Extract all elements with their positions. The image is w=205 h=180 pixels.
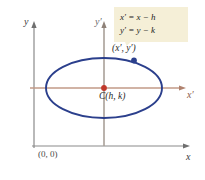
origin-label: (0, 0) (38, 150, 58, 159)
curve-point-label: (x′, y′) (112, 44, 136, 54)
y-prime-axis (101, 21, 106, 146)
translation-of-axes-diagram: x′ = x − h y′ = y − k y x y′ x′ (0, 0) C… (0, 0, 205, 180)
axis-label-x-prime: x′ (187, 90, 194, 100)
equation-y-prime: y′ = y − k (120, 24, 183, 37)
y-axis (31, 21, 36, 148)
axis-label-x: x (186, 152, 190, 162)
curve-point-dot (131, 58, 137, 64)
axis-label-y: y (24, 17, 28, 27)
formula-callout: x′ = x − h y′ = y − k (114, 7, 188, 42)
center-point-label: C(h, k) (99, 92, 125, 102)
x-axis (32, 143, 190, 148)
axis-label-y-prime: y′ (95, 17, 102, 27)
equation-x-prime: x′ = x − h (120, 11, 183, 24)
